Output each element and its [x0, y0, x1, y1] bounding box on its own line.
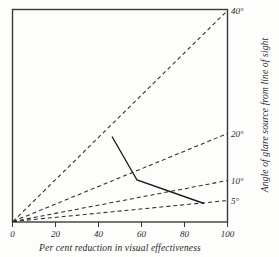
angle-label-40deg: 40°: [231, 6, 244, 16]
angle-label-5deg: 5°: [231, 196, 240, 206]
guide-line-5deg: [13, 201, 228, 222]
x-tick-label-40: 40: [94, 229, 104, 239]
x-axis-ticks: [13, 222, 228, 227]
angle-label-10deg: 10°: [231, 176, 244, 186]
guide-lines-group: [13, 11, 228, 222]
x-tick-label-80: 80: [180, 229, 190, 239]
guide-line-20deg: [13, 134, 228, 222]
x-tick-label-20: 20: [51, 229, 61, 239]
glare-angle-chart: 40° 20° 10° 5° 0 20 40 60 80 100 Per cen…: [0, 0, 279, 257]
angle-label-20deg: 20°: [231, 129, 244, 139]
y-axis-title: Angle of glare source from line of sight: [260, 38, 270, 194]
x-tick-label-0: 0: [10, 229, 15, 239]
chart-page: 40° 20° 10° 5° 0 20 40 60 80 100 Per cen…: [0, 0, 279, 257]
x-axis-title: Per cent reduction in visual effectivene…: [38, 243, 201, 253]
x-tick-label-60: 60: [137, 229, 147, 239]
guide-line-40deg: [13, 11, 228, 222]
x-tick-label-100: 100: [221, 229, 235, 239]
